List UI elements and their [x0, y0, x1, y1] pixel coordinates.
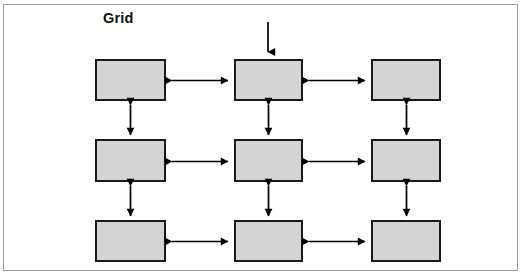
grid-node-r2c1[interactable]	[95, 139, 166, 182]
connector-v-c3-r1r2	[398, 100, 415, 140]
connector-v-c2-r2r3	[260, 181, 277, 221]
connector-h-r2-c2c3	[304, 153, 370, 170]
grid-node-r3c2[interactable]	[234, 220, 303, 262]
connector-external-in-top	[258, 18, 280, 62]
grid-node-r2c2[interactable]	[234, 139, 303, 182]
connector-v-c2-r1r2	[260, 100, 277, 140]
connector-v-c3-r2r3	[398, 181, 415, 221]
grid-node-r2c3[interactable]	[371, 139, 441, 182]
connector-v-c1-r2r3	[122, 181, 139, 221]
grid-topology-figure: Grid	[0, 0, 525, 277]
connector-h-r1-c2c3	[304, 72, 370, 89]
connector-h-r1-c1c2	[167, 72, 233, 89]
figure-title: Grid	[103, 10, 134, 26]
connector-h-r2-c1c2	[167, 153, 233, 170]
connector-h-r3-c1c2	[167, 233, 233, 250]
connector-v-c1-r1r2	[122, 100, 139, 140]
grid-node-r3c3[interactable]	[371, 220, 441, 262]
grid-node-r1c2[interactable]	[234, 59, 303, 101]
grid-node-r3c1[interactable]	[95, 220, 166, 262]
grid-node-r1c3[interactable]	[371, 59, 441, 101]
connector-h-r3-c2c3	[304, 233, 370, 250]
grid-node-r1c1[interactable]	[95, 59, 166, 101]
